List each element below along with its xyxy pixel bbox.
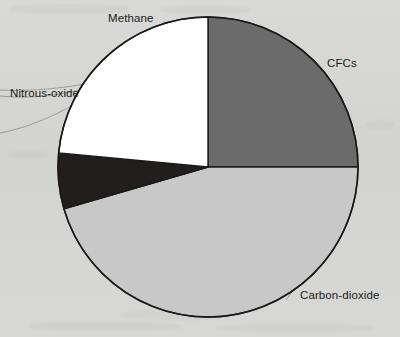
pie-slice-methane: [59, 17, 208, 167]
pie-label-methane: Methane: [108, 12, 153, 24]
pie-slices: [58, 17, 358, 317]
pie-slice-cfcs: [208, 17, 358, 167]
pie-chart: [0, 0, 400, 337]
pie-label-cfcs: CFCs: [327, 57, 357, 69]
pie-label-carbon-dioxide: Carbon-dioxide: [300, 289, 379, 301]
pie-label-nitrous-oxide: Nitrous-oxide: [10, 87, 79, 99]
